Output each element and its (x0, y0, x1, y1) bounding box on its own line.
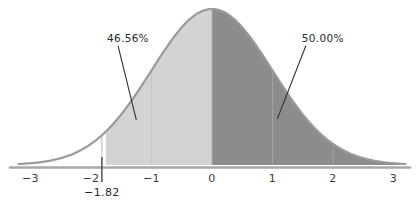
x-tick-label-2: −1 (143, 172, 160, 185)
x-tick-label-6: 3 (390, 172, 397, 185)
x-tick-label-5: 2 (329, 172, 336, 185)
right-area-percent-label: 50.00% (302, 32, 344, 44)
chart-canvas: −3−2−10123 −1.82 46.56% 50.00% (0, 0, 418, 208)
x-axis-tick-labels: −3−2−10123 (22, 172, 397, 185)
x-tick-label-3: 0 (208, 172, 215, 185)
normal-distribution-chart: −3−2−10123 −1.82 46.56% 50.00% (0, 0, 418, 208)
tick-label-neg182: −1.82 (84, 186, 120, 199)
x-tick-label-1: −2 (82, 172, 99, 185)
left-area-percent-label: 46.56% (107, 32, 149, 44)
x-tick-label-0: −3 (22, 172, 39, 185)
x-tick-label-4: 1 (269, 172, 276, 185)
